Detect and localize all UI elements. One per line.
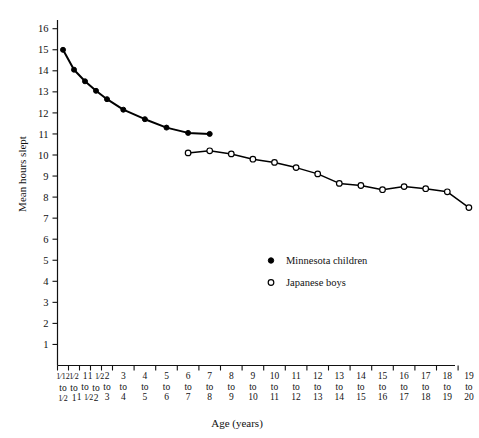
series-minnesota-children [61, 47, 213, 136]
data-point [358, 183, 364, 189]
data-point [186, 130, 191, 135]
data-point [164, 125, 169, 130]
legend-label: Japanese boys [286, 277, 346, 288]
data-point [445, 189, 451, 195]
series-line [63, 50, 210, 134]
data-point [423, 186, 429, 192]
data-point [185, 150, 191, 156]
data-point [105, 97, 110, 102]
data-point [466, 205, 472, 211]
data-point [272, 160, 278, 166]
data-point [142, 117, 147, 122]
y-tick-label: 7 [43, 213, 48, 224]
x-axis-category-label: 19to20 [455, 371, 479, 403]
data-point [250, 156, 256, 162]
axes [58, 20, 456, 366]
y-tick-label: 11 [38, 129, 48, 140]
y-tick-label: 8 [43, 192, 48, 203]
y-tick-label: 2 [43, 318, 48, 329]
data-point [315, 171, 321, 177]
chart-legend: Minnesota childrenJapanese boys [268, 255, 368, 288]
data-point [83, 79, 88, 84]
data-point [207, 131, 212, 136]
data-point [61, 47, 66, 52]
y-tick-label: 15 [38, 44, 49, 55]
y-axis-tick-labels: 12345678910111213141516 [38, 23, 49, 350]
legend-marker-open-circle-icon [268, 280, 274, 286]
y-tick-label: 12 [38, 108, 49, 119]
y-tick-label: 1 [43, 339, 48, 350]
legend-label: Minnesota children [286, 255, 368, 266]
y-tick-label: 16 [38, 23, 49, 34]
data-point [337, 181, 343, 187]
series-japanese-boys [185, 148, 471, 210]
data-point [72, 67, 77, 72]
data-point [380, 187, 386, 193]
data-point [207, 148, 213, 154]
data-point [401, 184, 407, 190]
y-tick-label: 9 [43, 171, 48, 182]
data-point [121, 107, 126, 112]
y-axis-ticks [53, 29, 58, 345]
data-point [94, 88, 99, 93]
y-tick-label: 5 [43, 255, 48, 266]
data-point [229, 151, 235, 157]
y-tick-label: 10 [38, 150, 49, 161]
y-axis-title: Mean hours slept [16, 119, 28, 229]
legend-marker-filled-circle-icon [268, 258, 273, 263]
y-tick-label: 14 [38, 65, 49, 76]
y-tick-label: 13 [38, 86, 49, 97]
y-tick-label: 3 [43, 297, 48, 308]
series-line [188, 151, 469, 208]
y-tick-label: 6 [43, 234, 48, 245]
x-axis-title: Age (years) [0, 417, 474, 429]
y-tick-label: 4 [43, 276, 49, 287]
data-point [293, 165, 299, 171]
x-axis-ticks [58, 366, 475, 371]
